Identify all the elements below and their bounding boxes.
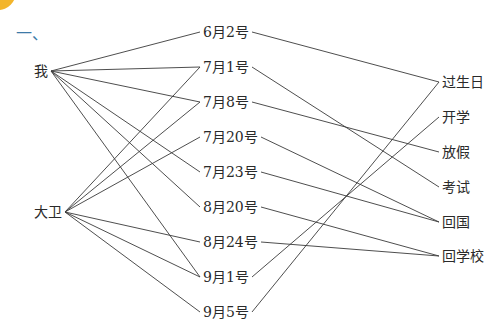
event-label: 过生日	[442, 74, 484, 90]
person-label: 我	[34, 63, 48, 79]
person-label: 大卫	[34, 204, 62, 220]
date-label: 8月24号	[203, 234, 258, 250]
date-label: 9月1号	[203, 269, 249, 285]
event-label: 考试	[442, 179, 470, 195]
date-label: 7月1号	[203, 59, 249, 75]
date-label: 7月23号	[203, 164, 258, 180]
event-label: 回国	[442, 214, 470, 230]
event-label: 开学	[442, 109, 470, 125]
date-label: 8月20号	[203, 199, 258, 215]
event-label: 回学校	[442, 248, 484, 264]
date-label: 7月20号	[203, 129, 258, 145]
date-label: 7月8号	[203, 94, 249, 110]
date-label: 6月2号	[203, 24, 249, 40]
event-label: 放假	[442, 144, 470, 160]
date-label: 9月5号	[203, 304, 249, 320]
